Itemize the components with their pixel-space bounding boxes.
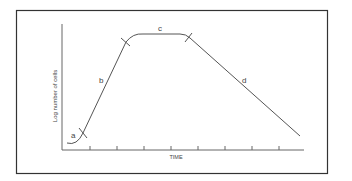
- x-axis-label: TIME: [169, 154, 182, 160]
- phase-label-c: c: [158, 24, 162, 33]
- diagram-frame: [17, 11, 328, 174]
- phase-label-b: b: [99, 76, 104, 85]
- growth-curve-diagram: a b c d TIME Log number of cells: [0, 0, 352, 181]
- phase-label-a: a: [71, 131, 76, 140]
- phase-label-d: d: [242, 76, 246, 85]
- x-axis-ticks: [90, 146, 279, 150]
- phase-boundary-c-d: [185, 33, 192, 42]
- phase-boundary-a-b: [79, 128, 87, 138]
- y-axis-label: Log number of cells: [52, 70, 58, 122]
- growth-curve-line: [67, 34, 300, 144]
